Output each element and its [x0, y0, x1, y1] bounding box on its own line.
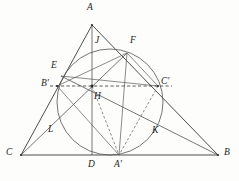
label-K: K	[152, 126, 158, 136]
label-B-prime: B'	[41, 79, 49, 89]
altitudes-group	[21, 25, 218, 155]
label-B: B	[224, 148, 230, 158]
label-E: E	[51, 61, 57, 71]
label-F: F	[130, 36, 136, 46]
point-marker-Cprime	[157, 85, 159, 87]
chord-F-to-Aprime	[119, 53, 127, 155]
chord-F-to-Cprime-extension	[127, 53, 158, 86]
dashed-Cprime-to-Aprime	[119, 86, 158, 155]
triangle-sides-group	[21, 25, 218, 155]
label-C: C	[6, 148, 12, 158]
altitude-B-to-E	[61, 76, 218, 155]
side-AB	[92, 25, 218, 155]
point-marker-C	[20, 154, 22, 156]
label-J: J	[95, 36, 99, 46]
chord-Bprime-to-Aprime	[57, 86, 119, 155]
altitude-C-to-F	[21, 53, 127, 155]
label-D: D	[88, 160, 95, 170]
geometry-canvas	[0, 0, 239, 181]
label-H: H	[94, 92, 101, 102]
label-L: L	[48, 125, 53, 135]
label-A: A	[87, 3, 93, 13]
point-marker-B	[217, 154, 219, 156]
label-C-prime: C'	[161, 77, 169, 87]
side-CA	[21, 25, 92, 155]
point-marker-H	[91, 85, 94, 88]
geometry-figure: A B C D E F H J K L A' B' C'	[0, 0, 239, 181]
point-markers-group	[20, 24, 219, 156]
nine-point-circle	[57, 49, 163, 155]
label-A-prime: A'	[114, 160, 122, 170]
dashed-group	[50, 86, 172, 155]
point-marker-Bprime	[56, 85, 58, 87]
point-marker-A	[91, 24, 93, 26]
